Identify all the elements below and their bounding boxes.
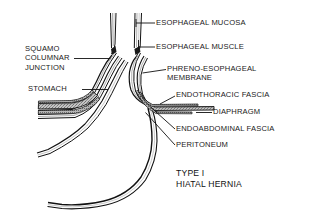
figure-title-line-1: TYPE I — [176, 168, 204, 179]
leader-line-endothoracic-fascia — [160, 96, 175, 104]
label-endothoracic-fascia: ENDOTHORACIC FASCIA — [176, 90, 270, 99]
label-esophageal-mucosa: ESOPHAGEAL MUCOSA — [156, 18, 246, 27]
label-endoabdominal-fascia: ENDOABDOMINAL FASCIA — [176, 124, 275, 133]
label-squamo-columnar-junction: SQUAMO COLUMNAR JUNCTION — [25, 44, 70, 72]
label-esophageal-muscle: ESOPHAGEAL MUSCLE — [156, 42, 244, 51]
leader-line-esophageal-muscle — [139, 40, 156, 50]
label-stomach: STOMACH — [28, 84, 67, 93]
figure-title-line-2: HIATAL HERNIA — [176, 179, 242, 190]
label-diaphragm: DIAPHRAGM — [213, 107, 260, 116]
hiatal-hernia-illustration — [0, 0, 315, 221]
label-phreno-esophageal-membrane: PHRENO-ESOPHAGEAL MEMBRANE — [167, 64, 256, 83]
figure-canvas: ESOPHAGEAL MUCOSA ESOPHAGEAL MUSCLE PHRE… — [0, 0, 315, 221]
leader-line-phreno-esophageal-membrane — [143, 70, 167, 74]
label-peritoneum: PERITONEUM — [176, 140, 228, 149]
stomach-fundus-curve — [48, 108, 158, 209]
leader-line-peritoneum — [146, 113, 176, 146]
